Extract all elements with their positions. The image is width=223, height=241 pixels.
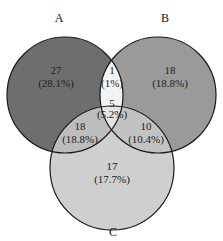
venn-diagram: A B C 27 (28.1%) 1 (1%) 18 (18.8%) 5 (5.…: [0, 0, 223, 241]
bc-only-count: 10: [141, 120, 153, 132]
set-label-b: B: [161, 11, 169, 25]
c-only-percent: (17.7%): [94, 173, 130, 186]
a-only-percent: (28.1%): [38, 77, 74, 90]
set-label-a: A: [55, 11, 64, 25]
ac-only-count: 18: [75, 120, 87, 132]
abc-percent: (5.2%): [97, 108, 128, 121]
a-only-count: 27: [51, 64, 63, 76]
ac-only-percent: (18.8%): [62, 133, 98, 146]
b-only-percent: (18.8%): [152, 77, 188, 90]
set-label-c: C: [109, 225, 117, 239]
b-only-count: 18: [165, 64, 177, 76]
bc-only-percent: (10.4%): [128, 133, 164, 146]
ab-only-count: 1: [109, 64, 115, 76]
ab-only-percent: (1%): [101, 77, 123, 90]
c-only-count: 17: [107, 160, 119, 172]
